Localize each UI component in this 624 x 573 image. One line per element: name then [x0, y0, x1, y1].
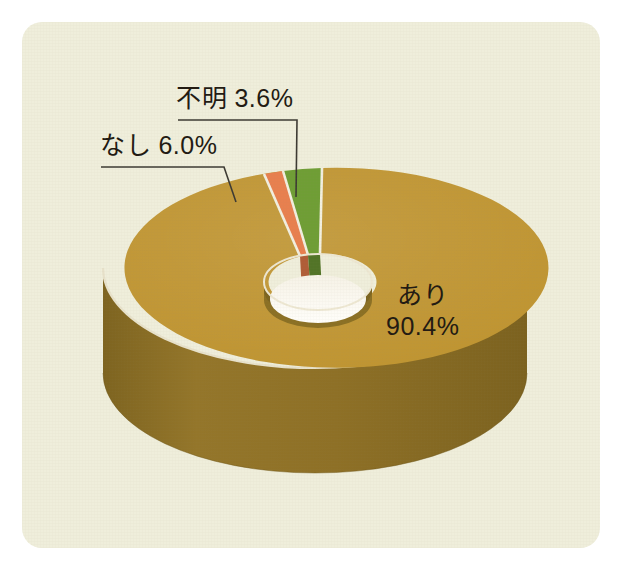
- slice-label-nashi: なし 6.0%: [100, 130, 217, 160]
- slice-label-ari-name: あり: [386, 280, 459, 311]
- hole-floor: [270, 275, 366, 323]
- pie-chart-graphic: [0, 0, 624, 573]
- slice-label-ari-value: 90.4%: [386, 311, 459, 342]
- figure-root: なし 6.0% 不明 3.6% あり 90.4%: [0, 0, 624, 573]
- slice-ari-sheen: [124, 168, 548, 368]
- slice-label-ari: あり 90.4%: [386, 280, 459, 342]
- donut-hole: [264, 254, 372, 328]
- slice-label-fumei: 不明 3.6%: [176, 83, 293, 113]
- slice-ari[interactable]: [124, 168, 548, 368]
